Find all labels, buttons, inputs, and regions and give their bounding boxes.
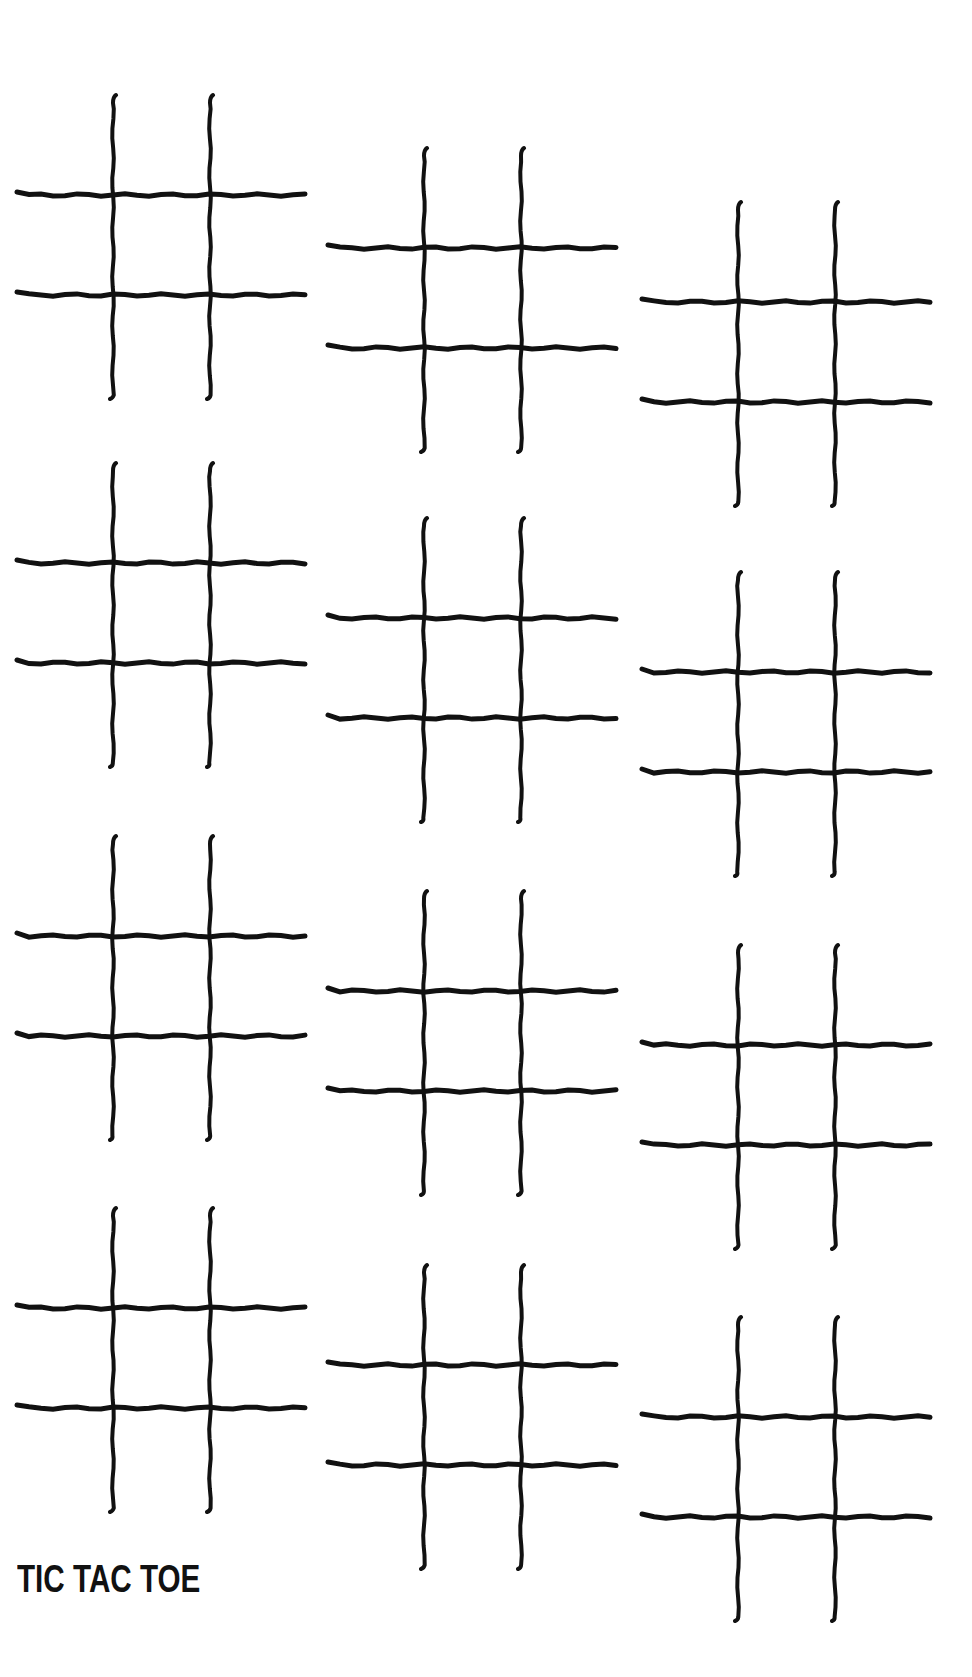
tic-tac-toe-board	[642, 206, 932, 502]
vertical-line	[735, 1317, 741, 1621]
horizontal-line	[17, 1305, 305, 1309]
horizontal-line	[642, 1414, 930, 1418]
tic-tac-toe-board	[642, 576, 932, 872]
horizontal-line	[642, 399, 930, 403]
tic-tac-toe-board	[642, 949, 932, 1245]
tic-tac-toe-board	[17, 840, 307, 1136]
tic-tac-toe-board	[17, 467, 307, 763]
vertical-line	[421, 518, 427, 822]
vertical-line	[832, 1317, 838, 1621]
vertical-line	[110, 836, 116, 1140]
horizontal-line	[17, 660, 305, 664]
vertical-line	[110, 1208, 116, 1512]
vertical-line	[832, 572, 838, 876]
horizontal-line	[17, 292, 305, 296]
horizontal-line	[17, 192, 305, 196]
vertical-line	[832, 945, 838, 1249]
tic-tac-toe-board	[17, 1212, 307, 1508]
horizontal-line	[328, 988, 616, 992]
horizontal-line	[17, 1405, 305, 1409]
vertical-line	[518, 148, 524, 452]
tic-tac-toe-board	[328, 895, 618, 1191]
horizontal-line	[328, 245, 616, 249]
vertical-line	[110, 95, 116, 399]
horizontal-line	[642, 299, 930, 303]
horizontal-line	[328, 1088, 616, 1092]
horizontal-line	[642, 669, 930, 673]
page-title: TIC TAC TOE	[17, 1560, 200, 1598]
vertical-line	[832, 202, 838, 506]
horizontal-line	[642, 1514, 930, 1518]
vertical-line	[207, 836, 213, 1140]
tic-tac-toe-board	[642, 1321, 932, 1617]
vertical-line	[421, 148, 427, 452]
vertical-line	[421, 891, 427, 1195]
horizontal-line	[17, 560, 305, 564]
horizontal-line	[328, 715, 616, 719]
horizontal-line	[642, 1142, 930, 1146]
horizontal-line	[328, 1362, 616, 1366]
horizontal-line	[328, 345, 616, 349]
vertical-line	[207, 463, 213, 767]
horizontal-line	[17, 1033, 305, 1037]
tic-tac-toe-board	[328, 1269, 618, 1565]
vertical-line	[735, 572, 741, 876]
horizontal-line	[328, 1462, 616, 1466]
vertical-line	[518, 518, 524, 822]
horizontal-line	[17, 933, 305, 937]
tic-tac-toe-board	[17, 99, 307, 395]
vertical-line	[421, 1265, 427, 1569]
horizontal-line	[642, 1042, 930, 1046]
vertical-line	[735, 945, 741, 1249]
tic-tac-toe-board	[328, 522, 618, 818]
vertical-line	[110, 463, 116, 767]
vertical-line	[518, 1265, 524, 1569]
horizontal-line	[642, 769, 930, 773]
vertical-line	[735, 202, 741, 506]
vertical-line	[518, 891, 524, 1195]
horizontal-line	[328, 615, 616, 619]
tic-tac-toe-board	[328, 152, 618, 448]
vertical-line	[207, 1208, 213, 1512]
vertical-line	[207, 95, 213, 399]
